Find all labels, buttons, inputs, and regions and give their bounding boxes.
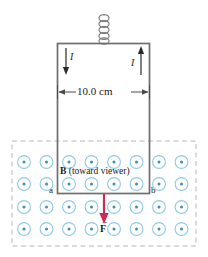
vector-arrow-icon: → xyxy=(100,218,108,226)
physics-diagram: I I 10.0 cm B (toward viewer) a b →F xyxy=(0,0,208,257)
current-label-right: I xyxy=(131,58,134,68)
field-dot-icon xyxy=(85,201,98,214)
field-dot-icon xyxy=(85,223,98,236)
field-dot-icon xyxy=(18,201,31,214)
bfield-note: (toward viewer) xyxy=(69,166,130,176)
field-dot-icon xyxy=(18,156,31,169)
field-dot-icon xyxy=(18,223,31,236)
force-label: →F xyxy=(100,224,106,234)
field-dot-icon xyxy=(40,201,53,214)
current-arrow-right xyxy=(138,46,144,75)
field-dot-icon xyxy=(130,178,143,191)
node-label-a: a xyxy=(49,186,53,195)
field-dot-icon xyxy=(85,178,98,191)
current-label-left: I xyxy=(70,52,73,62)
field-dot-icon xyxy=(108,201,121,214)
field-dot-icon xyxy=(175,223,188,236)
dimension-label: 10.0 cm xyxy=(77,86,112,97)
field-dot-icon xyxy=(175,178,188,191)
field-dot-icon xyxy=(63,201,76,214)
current-arrow-left xyxy=(63,48,69,75)
field-dot-icon xyxy=(175,156,188,169)
node-label-b: b xyxy=(151,186,156,195)
field-dot-icon xyxy=(130,156,143,169)
field-dot-icon xyxy=(130,201,143,214)
field-dot-icon xyxy=(40,223,53,236)
field-dot-icon xyxy=(153,201,166,214)
field-dot-icon xyxy=(175,201,188,214)
field-dot-icon xyxy=(63,178,76,191)
field-dot-icon xyxy=(153,156,166,169)
field-dot-icon xyxy=(108,178,121,191)
field-dot-row xyxy=(18,178,188,191)
field-dot-icon xyxy=(153,223,166,236)
field-dot-icon xyxy=(40,156,53,169)
field-dot-icon xyxy=(130,223,143,236)
field-dot-row xyxy=(18,201,188,214)
field-dot-icon xyxy=(18,178,31,191)
field-dot-icon xyxy=(63,223,76,236)
field-dot-icon xyxy=(108,223,121,236)
spring-coil-icon xyxy=(99,15,109,45)
bfield-label: B (toward viewer) xyxy=(60,167,130,177)
